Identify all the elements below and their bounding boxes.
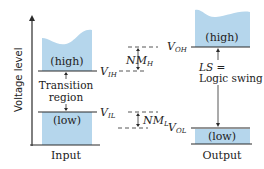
output-caption: Output: [202, 149, 242, 162]
transition-label-1: Transition: [39, 79, 94, 91]
nml-label: NML: [142, 114, 169, 128]
output-low-label: (low): [208, 130, 236, 143]
voh-label: VOH: [167, 40, 188, 54]
input-high-label: (high): [50, 55, 83, 68]
vil-label: VIL: [100, 106, 116, 120]
vih-label: VIH: [100, 65, 118, 79]
transition-label-2: region: [49, 91, 84, 103]
logic-levels-diagram: Voltage level (high) Transition region (…: [0, 0, 264, 169]
input-caption: Input: [51, 149, 82, 162]
y-axis-label: Voltage level: [13, 48, 24, 112]
input-low-label: (low): [53, 114, 81, 127]
logic-swing-label: Logic swing: [199, 72, 263, 84]
vol-label: VOL: [168, 121, 187, 135]
nmh-label: NMH: [125, 54, 154, 68]
output-high-label: (high): [205, 31, 238, 44]
